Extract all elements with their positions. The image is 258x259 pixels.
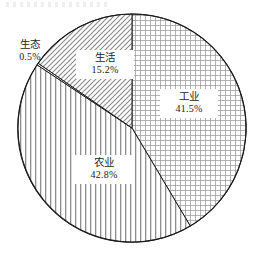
pie-label-industry: 工业 41.5% — [160, 89, 218, 118]
pie-label-living-name: 生活 — [79, 51, 131, 64]
pie-label-agriculture-name: 农业 — [78, 156, 130, 169]
pie-label-living: 生活 15.2% — [76, 50, 134, 79]
pie-label-living-value: 15.2% — [79, 64, 131, 77]
pie-chart-figure: 工业 41.5% 农业 42.8% 生活 15.2% 生态 0.5% — [0, 0, 258, 259]
pie-label-industry-name: 工业 — [163, 90, 215, 103]
pie-label-ecology: 生态 0.5% — [8, 38, 52, 64]
pie-label-ecology-name: 生态 — [8, 38, 52, 51]
pie-label-industry-value: 41.5% — [163, 103, 215, 116]
pie-label-agriculture-value: 42.8% — [78, 169, 130, 182]
pie-label-agriculture: 农业 42.8% — [75, 155, 133, 184]
pie-label-ecology-value: 0.5% — [8, 51, 52, 64]
